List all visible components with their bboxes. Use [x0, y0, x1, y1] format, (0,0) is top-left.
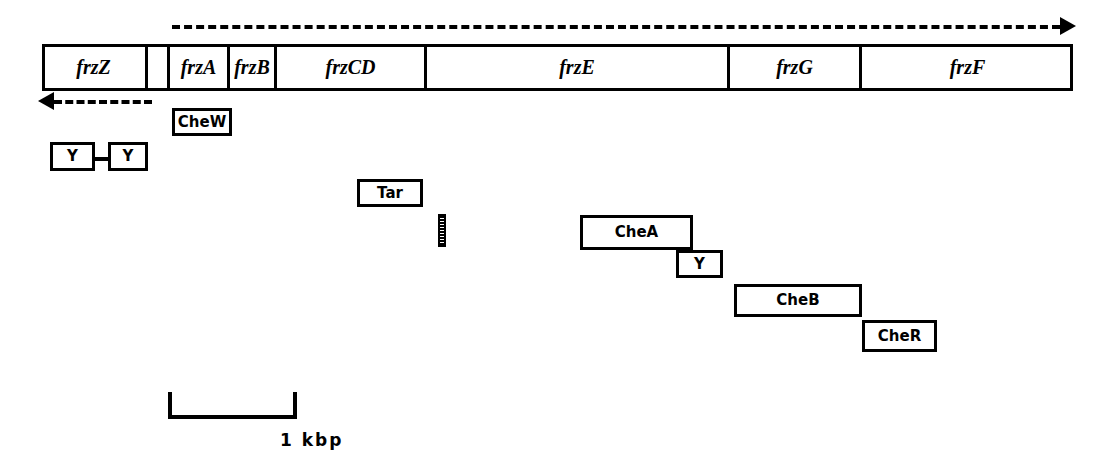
gene-segment-frzF: frzF [862, 47, 1073, 88]
gene-segment-spacer [148, 47, 170, 88]
cheb-box-label: CheB [776, 293, 819, 308]
y-box-1-label: Y [67, 149, 78, 164]
cher-box: CheR [862, 320, 937, 352]
tar-box-label: Tar [377, 186, 403, 201]
y-box-2: Y [108, 142, 148, 171]
gene-segment-frzE: frzE [427, 47, 730, 88]
leftward-transcript-arrow-line [54, 100, 152, 104]
scale-bar-bracket [168, 392, 297, 419]
gene-segment-label: frzE [559, 56, 595, 79]
y-box-3: Y [676, 250, 723, 278]
gene-segment-frzZ: frzZ [42, 47, 148, 88]
gene-segment-label: frzB [234, 56, 270, 79]
y-box-3-label: Y [694, 257, 705, 272]
y-box-2-label: Y [123, 149, 134, 164]
y-to-y-connector [95, 157, 108, 161]
cheb-box: CheB [734, 284, 862, 317]
scale-bar-label: 1 kbp [280, 430, 343, 450]
tar-box: Tar [357, 179, 423, 207]
figure-canvas: frzZfrzAfrzBfrzCDfrzEfrzGfrzF CheWYYTarC… [0, 0, 1103, 473]
gene-segment-label: frzZ [76, 56, 110, 79]
gene-segment-label: frzG [776, 56, 813, 79]
gene-segment-label: frzF [950, 56, 986, 79]
hatched-motif-block [438, 214, 446, 247]
rightward-transcript-arrow-line [172, 25, 1060, 29]
cher-box-label: CheR [878, 329, 921, 344]
chea-box: CheA [580, 215, 693, 250]
gene-segment-frzCD: frzCD [277, 47, 427, 88]
rightward-transcript-arrow-head [1060, 17, 1076, 35]
gene-segment-label: frzCD [325, 56, 375, 79]
chea-box-label: CheA [615, 225, 658, 240]
chew-box: CheW [172, 108, 232, 136]
gene-segment-label: frzA [181, 56, 217, 79]
gene-segment-frzA: frzA [170, 47, 230, 88]
leftward-transcript-arrow-head [38, 92, 54, 110]
gene-segment-frzG: frzG [730, 47, 862, 88]
y-box-1: Y [50, 142, 95, 171]
gene-cluster-bar: frzZfrzAfrzBfrzCDfrzEfrzGfrzF [42, 44, 1073, 91]
chew-box-label: CheW [178, 115, 226, 130]
gene-segment-frzB: frzB [230, 47, 277, 88]
